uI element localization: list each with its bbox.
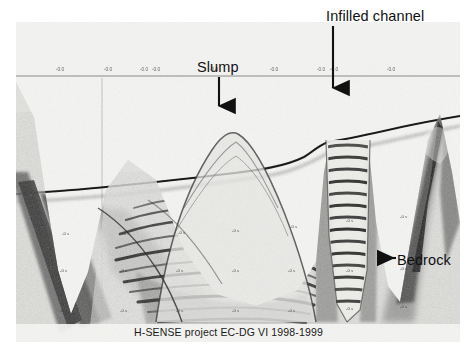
- infilled-channel-label: Infilled channel: [326, 8, 424, 24]
- figure-root: -0.0 -0.0 -0.0 -0.0 -0.0 -0.0 -0.0 -0.0 …: [0, 0, 474, 356]
- slump-label: Slump: [197, 59, 239, 75]
- bedrock-label: Bedrock: [397, 252, 451, 268]
- figure-caption: H-SENSE project EC-DG VI 1998-1999: [134, 326, 323, 338]
